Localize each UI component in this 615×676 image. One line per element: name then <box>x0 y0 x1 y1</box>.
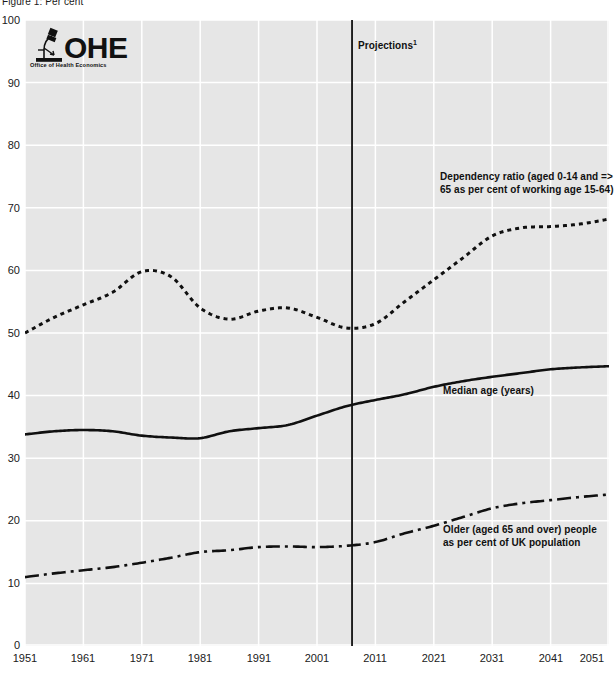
figure-caption: Figure 1: Per cent <box>2 0 83 7</box>
x-tick-1991: 1991 <box>239 652 279 664</box>
x-tick-2011: 2011 <box>355 652 395 664</box>
y-tick-50: 50 <box>0 327 20 339</box>
y-tick-60: 60 <box>0 264 20 276</box>
y-tick-10: 10 <box>0 577 20 589</box>
annotation-median-age: Median age (years) <box>443 384 534 397</box>
chart-canvas <box>25 20 609 646</box>
y-tick-80: 80 <box>0 139 20 151</box>
annotation-projections: Projections1 <box>358 36 417 52</box>
x-tick-1971: 1971 <box>122 652 162 664</box>
x-tick-2031: 2031 <box>472 652 512 664</box>
y-tick-0: 0 <box>0 639 20 651</box>
y-tick-90: 90 <box>0 77 20 89</box>
y-tick-40: 40 <box>0 389 20 401</box>
y-tick-100: 100 <box>0 14 20 26</box>
x-tick-1951: 1951 <box>5 652 45 664</box>
y-tick-30: 30 <box>0 452 20 464</box>
ohe-logo-subtitle: Office of Health Economics <box>30 62 107 68</box>
x-tick-2021: 2021 <box>414 652 454 664</box>
annotation-projections-footnote: 1 <box>413 39 417 46</box>
svg-text:OHE: OHE <box>64 31 128 64</box>
x-tick-1981: 1981 <box>180 652 220 664</box>
x-tick-1961: 1961 <box>63 652 103 664</box>
y-tick-20: 20 <box>0 514 20 526</box>
x-tick-2051: 2051 <box>572 652 612 664</box>
y-tick-70: 70 <box>0 202 20 214</box>
x-tick-2001: 2001 <box>297 652 337 664</box>
figure-root: Figure 1: Per cent <box>0 0 615 676</box>
plot-area <box>25 20 609 646</box>
annotation-projections-text: Projections <box>358 40 413 51</box>
annotation-dependency-ratio: Dependency ratio (aged 0-14 and => 65 as… <box>440 170 615 196</box>
x-tick-2041: 2041 <box>531 652 571 664</box>
annotation-older-people: Older (aged 65 and over) people as per c… <box>443 523 608 549</box>
